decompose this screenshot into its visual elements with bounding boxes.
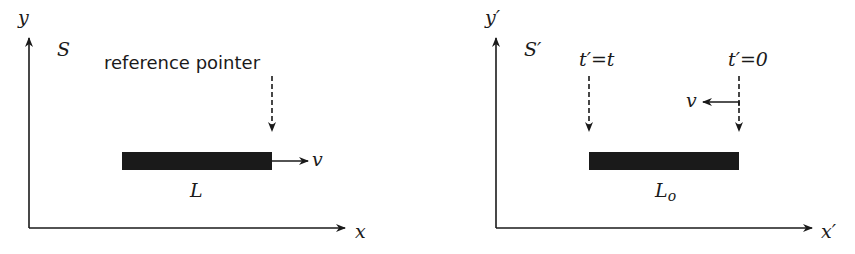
proper-length-subscript: o [668,188,676,204]
pointer-label: reference pointer [104,52,261,73]
y-axis-label: y [17,6,29,28]
proper-length-label: Lo [654,179,676,204]
proper-length-symbol: L [654,179,668,201]
velocity-label: v [312,148,323,170]
frame-label: S [57,38,70,60]
rod [589,152,739,170]
rod [122,152,272,170]
frame-label: S′ [524,38,542,60]
right-frame: y′ x′ S′ t′=t t′=0 v Lo [484,6,837,242]
relativity-diagram: y x S reference pointer v L y′ x′ S′ t′=… [0,0,855,254]
left-frame: y x S reference pointer v L [17,6,366,242]
y-prime-axis-label: y′ [484,6,501,28]
velocity-label: v [686,89,697,111]
right-pointer-label: t′=0 [728,48,768,70]
x-prime-axis-label: x′ [821,220,837,242]
x-axis-label: x [355,220,366,242]
velocity-arrow [703,102,739,106]
left-pointer-label: t′=t [579,48,615,70]
rod-length-label: L [189,179,203,201]
